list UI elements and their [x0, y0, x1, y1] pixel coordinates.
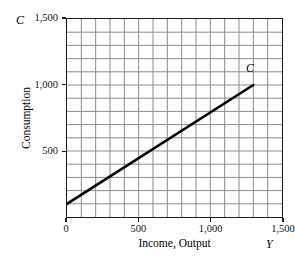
x-axis-tick: [138, 218, 139, 222]
y-axis-tick-label: 500: [42, 146, 58, 157]
consumption-line-series: [67, 19, 282, 217]
y-axis-tick: [62, 17, 66, 18]
x-axis-tick: [65, 218, 66, 222]
y-axis-tick-label: 1,500: [34, 13, 58, 24]
consumption-line: [67, 85, 253, 204]
x-axis-tick: [282, 218, 283, 222]
y-axis-tick: [62, 151, 66, 152]
consumption-function-chart: C Y C 05001,0001,5005001,0001,500 Income…: [0, 0, 295, 266]
consumption-curve-label: C: [246, 63, 254, 75]
x-axis-tick-label: 1,500: [253, 224, 295, 235]
y-axis-tick-label: 1,000: [34, 80, 58, 91]
x-axis-tick-label: 0: [36, 224, 96, 235]
y-axis-tick: [62, 84, 66, 85]
plot-area: [66, 18, 283, 218]
x-axis-tick: [210, 218, 211, 222]
y-axis-title: Consumption: [18, 18, 34, 218]
x-axis-tick-label: 500: [108, 224, 168, 235]
x-axis-title: Income, Output: [66, 238, 283, 250]
x-axis-tick-label: 1,000: [181, 224, 241, 235]
